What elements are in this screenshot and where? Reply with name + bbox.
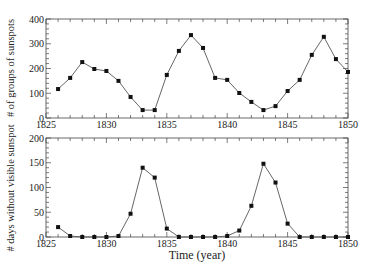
data-point-marker — [249, 100, 253, 104]
data-point-marker — [177, 235, 181, 239]
data-point-marker — [116, 79, 120, 83]
top-y-axis-title: # of groups of sunspots — [5, 19, 16, 117]
data-point-marker — [310, 235, 314, 239]
data-point-marker — [274, 104, 278, 108]
y-tick-label: 100 — [29, 182, 44, 193]
data-point-marker — [104, 69, 108, 73]
data-point-marker — [237, 91, 241, 95]
data-point-marker — [153, 176, 157, 180]
data-point-marker — [225, 234, 229, 238]
x-tick-label: 1850 — [338, 119, 358, 130]
x-tick-label: 1845 — [278, 238, 298, 249]
data-point-marker — [286, 222, 290, 226]
top-panel-groups-of-sunspots: 1825183018351840184518500100200300400 — [29, 14, 358, 131]
data-point-marker — [346, 235, 350, 239]
data-point-marker — [213, 76, 217, 80]
chart-canvas: 1825183018351840184518500100200300400 18… — [0, 0, 372, 272]
data-point-marker — [201, 235, 205, 239]
x-tick-label: 1850 — [338, 238, 358, 249]
data-point-marker — [261, 162, 265, 166]
data-point-marker — [261, 108, 265, 112]
data-point-marker — [56, 225, 60, 229]
data-point-marker — [334, 235, 338, 239]
x-tick-label: 1840 — [217, 119, 237, 130]
data-point-marker — [274, 181, 278, 185]
data-point-marker — [177, 49, 181, 53]
y-tick-label: 400 — [29, 14, 44, 25]
y-tick-label: 0 — [39, 113, 44, 124]
bottom-y-axis-title: # days without visible sunspot — [5, 124, 16, 251]
data-point-marker — [334, 57, 338, 61]
data-point-marker — [129, 95, 133, 99]
data-point-marker — [249, 204, 253, 208]
data-point-marker — [153, 108, 157, 112]
y-tick-label: 0 — [39, 232, 44, 243]
y-tick-label: 100 — [29, 88, 44, 99]
data-point-marker — [80, 235, 84, 239]
plot-frame — [46, 19, 348, 118]
data-point-marker — [116, 234, 120, 238]
x-tick-label: 1830 — [96, 119, 116, 130]
data-point-marker — [129, 212, 133, 216]
y-tick-label: 150 — [29, 157, 44, 168]
data-point-marker — [189, 33, 193, 37]
y-tick-label: 50 — [34, 207, 44, 218]
data-point-marker — [322, 35, 326, 39]
data-point-marker — [225, 78, 229, 82]
data-point-marker — [189, 235, 193, 239]
data-series-line — [58, 164, 348, 237]
y-tick-label: 200 — [29, 63, 44, 74]
data-point-marker — [165, 227, 169, 231]
x-tick-label: 1830 — [96, 238, 116, 249]
data-point-marker — [68, 234, 72, 238]
data-point-marker — [310, 53, 314, 57]
data-point-marker — [298, 78, 302, 82]
data-point-marker — [237, 229, 241, 233]
x-tick-label: 1835 — [157, 119, 177, 130]
data-point-marker — [104, 235, 108, 239]
data-point-marker — [92, 67, 96, 71]
data-point-marker — [165, 73, 169, 77]
x-axis-title: Time (year) — [169, 248, 226, 262]
y-tick-label: 300 — [29, 38, 44, 49]
data-point-marker — [213, 235, 217, 239]
y-tick-label: 200 — [29, 133, 44, 144]
data-point-marker — [92, 235, 96, 239]
data-point-marker — [141, 108, 145, 112]
data-point-marker — [80, 60, 84, 64]
data-point-marker — [141, 166, 145, 170]
sunspot-chart-figure: 1825183018351840184518500100200300400 18… — [0, 0, 372, 272]
plot-frame — [46, 138, 348, 237]
data-point-marker — [322, 235, 326, 239]
data-point-marker — [298, 235, 302, 239]
data-point-marker — [68, 76, 72, 80]
x-tick-label: 1845 — [278, 119, 298, 130]
data-point-marker — [201, 46, 205, 50]
data-point-marker — [56, 87, 60, 91]
data-point-marker — [346, 70, 350, 74]
data-point-marker — [286, 89, 290, 93]
bottom-panel-days-without-sunspot: 182518301835184018451850050100150200 — [29, 133, 358, 250]
